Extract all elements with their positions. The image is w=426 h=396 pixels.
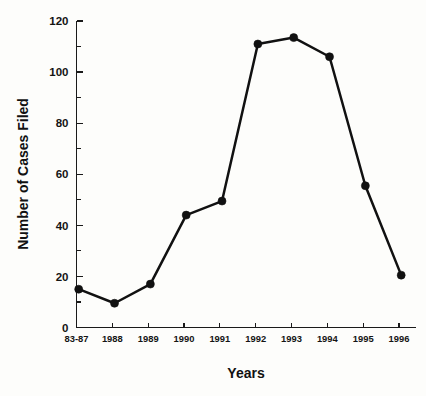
x-axis-tick-labels: 83-8719881989199019911992199319941995199… [65,333,410,344]
plot-series-group [75,34,406,308]
series-markers [75,34,406,308]
x-tick-label: 1988 [102,333,123,344]
y-tick-label: 100 [49,66,68,78]
data-point-marker [146,280,154,288]
x-axis-ticks [77,323,400,328]
x-tick-label: 1993 [281,333,302,344]
x-tick-label: 1991 [209,333,230,344]
data-point-marker [361,182,369,190]
x-tick-label: 1994 [317,333,339,344]
y-tick-label: 20 [56,271,69,283]
x-tick-label: 1990 [174,333,195,344]
series-line-cases-filed [79,38,402,304]
y-tick-label: 120 [49,15,68,27]
x-tick-label: 1995 [353,333,374,344]
x-tick-label: 1989 [138,333,159,344]
x-tick-label: 83-87 [65,333,89,344]
y-tick-label: 80 [56,117,69,129]
data-point-marker [111,299,119,307]
x-axis-title: Years [227,365,265,381]
x-axis-group: 83-8719881989199019911992199319941995199… [65,323,416,344]
y-tick-label: 40 [56,220,69,232]
y-axis-tick-labels: 020406080100120 [49,15,68,334]
data-point-marker [254,40,262,48]
x-tick-label: 1992 [245,333,266,344]
data-point-marker [182,211,190,219]
line-chart-canvas: 020406080100120 83-871988198919901991199… [0,0,426,396]
chart-figure: 020406080100120 83-871988198919901991199… [0,0,426,396]
data-point-marker [397,271,405,279]
y-axis-major-ticks [77,21,83,328]
data-point-marker [218,197,226,205]
y-axis-title: Number of Cases Filed [15,98,31,250]
x-tick-label: 1996 [389,333,410,344]
data-point-marker [75,285,83,293]
y-tick-label: 60 [56,168,69,180]
data-point-marker [326,53,334,61]
data-point-marker [290,34,298,42]
